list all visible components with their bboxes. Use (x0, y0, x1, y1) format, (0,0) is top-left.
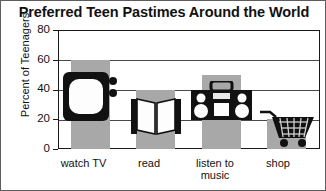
boombox-icon (191, 81, 252, 120)
x-category-label-listen-to-music: listen to music (184, 158, 246, 181)
y-tick-label-0: 0 (20, 143, 50, 155)
chart-title: Preferred Teen Pastimes Around the World (1, 4, 326, 20)
y-tick-label-20: 20 (20, 113, 50, 125)
x-category-label-read: read (118, 158, 180, 170)
x-category-label-shop: shop (247, 158, 309, 170)
chart-card: Preferred Teen Pastimes Around the World… (0, 0, 326, 191)
shopping-cart-icon (258, 108, 316, 148)
bars-layer (58, 30, 320, 149)
y-tick-label-60: 60 (20, 54, 50, 66)
y-tick-mark-0 (53, 149, 58, 150)
television-icon (63, 72, 119, 121)
y-tick-label-40: 40 (20, 83, 50, 95)
y-tick-label-80: 80 (20, 24, 50, 36)
open-book-icon (131, 97, 181, 136)
x-category-label-watch-tv: watch TV (51, 158, 116, 170)
